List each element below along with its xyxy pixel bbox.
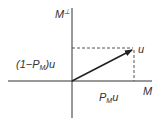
projection-label: PMu: [99, 91, 118, 104]
orthogonal-component-label: (1−PM)u: [16, 58, 55, 71]
vector-label: u: [138, 43, 144, 55]
vector-u: [72, 50, 132, 81]
vertical-axis-label: M⊥: [55, 8, 70, 20]
projection-diagram: M⊥ u (1−PM)u M PMu: [0, 0, 161, 121]
horizontal-axis-label: M: [143, 85, 153, 97]
